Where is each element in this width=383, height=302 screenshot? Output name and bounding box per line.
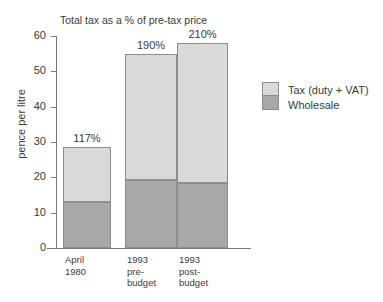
bar-segment-tax[interactable]	[63, 147, 111, 202]
bar-annotation: 117%	[63, 133, 111, 144]
legend-swatch	[262, 82, 279, 110]
chart-title: Total tax as a % of pre-tax price	[60, 14, 207, 26]
bar-segment-wholesale[interactable]	[125, 180, 177, 248]
y-tick-label: 40	[22, 101, 46, 112]
bar-stack[interactable]	[177, 43, 228, 248]
y-tick-label: 50	[22, 65, 46, 76]
bar-annotation: 210%	[177, 29, 228, 40]
y-tick-label: 30	[22, 136, 46, 147]
legend-label-wholesale: Wholesale	[288, 100, 339, 111]
legend-label-tax: Tax (duty + VAT)	[288, 85, 369, 96]
y-axis-label: pence per litre	[15, 76, 27, 172]
bar-annotation: 190%	[125, 40, 177, 51]
bar-segment-wholesale[interactable]	[63, 202, 111, 248]
x-category-label: 1993 pre- budget	[127, 254, 156, 289]
bar-stack[interactable]	[125, 54, 177, 248]
bar-segment-wholesale[interactable]	[177, 183, 228, 248]
y-tick-label: 0	[22, 242, 46, 253]
x-category-label: 1993 post- budget	[179, 254, 208, 289]
bar-segment-tax[interactable]	[125, 54, 177, 180]
y-tick-label: 20	[22, 171, 46, 182]
y-tick-label: 10	[22, 207, 46, 218]
y-tick-label: 60	[22, 30, 46, 41]
chart-container: Total tax as a % of pre-tax price pence …	[0, 0, 383, 302]
bar-segment-tax[interactable]	[177, 43, 228, 183]
bar-stack[interactable]	[63, 147, 111, 248]
x-category-label: April 1980	[65, 254, 86, 277]
x-axis-line	[47, 248, 251, 249]
legend-swatch-tax	[263, 83, 278, 96]
y-tick-mark	[51, 248, 56, 249]
legend-swatch-wholesale	[263, 96, 278, 109]
